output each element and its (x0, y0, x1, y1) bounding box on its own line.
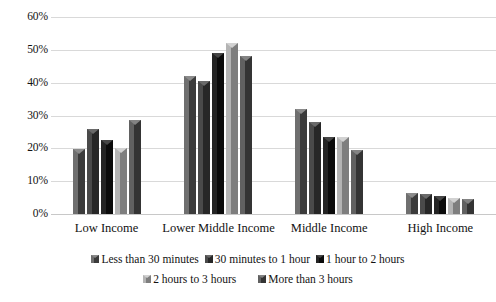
legend-swatch-cap (258, 275, 266, 278)
legend-item[interactable]: 30 minutes to 1 hour (205, 253, 310, 265)
bar-groups (51, 17, 496, 214)
bar (184, 76, 196, 214)
bar (309, 122, 321, 214)
bar (198, 81, 210, 214)
bar-top-cap (198, 81, 210, 86)
legend: Less than 30 minutes30 minutes to 1 hour… (0, 249, 496, 289)
bar (295, 109, 307, 214)
bar-face (226, 43, 238, 214)
legend-swatch-icon (258, 275, 266, 283)
x-axis-category-label: Low Income (51, 221, 162, 235)
bar (73, 149, 85, 214)
y-axis-tick-label: 0% (4, 208, 48, 220)
bar-group (184, 17, 252, 214)
bar (323, 137, 335, 214)
bar-group (295, 17, 363, 214)
legend-label: Less than 30 minutes (101, 253, 198, 265)
bar (462, 199, 474, 214)
bar-face (295, 109, 307, 214)
legend-swatch-icon (316, 255, 324, 263)
legend-swatch-icon (91, 255, 99, 263)
y-axis-tick-label: 30% (4, 110, 48, 122)
bar (420, 194, 432, 214)
legend-label: 1 hour to 2 hours (326, 253, 405, 265)
bar-group (73, 17, 141, 214)
legend-item[interactable]: More than 3 hours (258, 273, 353, 285)
bar-face (184, 76, 196, 214)
y-axis-tick-label: 20% (4, 142, 48, 154)
bar-top-cap (184, 76, 196, 81)
bar-face (309, 122, 321, 214)
legend-swatch-cap (205, 255, 213, 258)
bar-face (129, 120, 141, 214)
bar-top-cap (323, 137, 335, 142)
bar (226, 43, 238, 214)
bar-top-cap (115, 148, 127, 153)
bar-top-cap (434, 196, 446, 201)
bar (406, 193, 418, 214)
bar-face (337, 137, 349, 214)
bar-top-cap (309, 122, 321, 127)
bar-top-cap (129, 120, 141, 125)
legend-item[interactable]: 1 hour to 2 hours (316, 253, 405, 265)
legend-swatch-icon (205, 255, 213, 263)
bar-face (101, 140, 113, 214)
x-axis-category-label: Middle Income (274, 221, 385, 235)
bar-top-cap (101, 140, 113, 145)
bar (212, 53, 224, 214)
bar-top-cap (420, 194, 432, 199)
y-axis-tick-label: 10% (4, 175, 48, 187)
legend-label: 2 hours to 3 hours (153, 273, 236, 285)
bar-face (115, 148, 127, 214)
bar (240, 56, 252, 214)
plot-area (51, 17, 496, 214)
legend-item[interactable]: 2 hours to 3 hours (143, 273, 236, 285)
axis-baseline (51, 214, 496, 215)
legend-label: 30 minutes to 1 hour (215, 253, 310, 265)
bar-top-cap (351, 150, 363, 155)
bar-face (323, 137, 335, 214)
bar-top-cap (73, 149, 85, 154)
bar-face (198, 81, 210, 214)
legend-label: More than 3 hours (268, 273, 353, 285)
bar-top-cap (406, 193, 418, 198)
bar-top-cap (87, 129, 99, 134)
bar (351, 150, 363, 214)
bar (434, 196, 446, 214)
bar (129, 120, 141, 214)
legend-row-second: 2 hours to 3 hoursMore than 3 hours (0, 269, 496, 289)
bar-face (73, 149, 85, 214)
bar (87, 129, 99, 214)
bar (337, 137, 349, 214)
bar-face (87, 129, 99, 214)
bar (115, 148, 127, 214)
x-axis-category-label: High Income (385, 221, 496, 235)
bar-top-cap (295, 109, 307, 114)
legend-item[interactable]: Less than 30 minutes (91, 253, 198, 265)
y-axis-tick-label: 50% (4, 44, 48, 56)
legend-swatch-cap (143, 275, 151, 278)
bar-top-cap (337, 137, 349, 142)
bar-top-cap (462, 199, 474, 204)
bar-face (212, 53, 224, 214)
bar-face (351, 150, 363, 214)
y-axis-tick-label: 60% (4, 11, 48, 23)
y-axis-tick-label: 40% (4, 77, 48, 89)
legend-row-first: Less than 30 minutes30 minutes to 1 hour… (0, 249, 496, 269)
bar-top-cap (212, 53, 224, 58)
bar-top-cap (226, 43, 238, 48)
x-axis-category-label: Lower Middle Income (162, 221, 273, 235)
legend-swatch-icon (143, 275, 151, 283)
legend-swatch-cap (316, 255, 324, 258)
bar-face (240, 56, 252, 214)
legend-swatch-cap (91, 255, 99, 258)
bar-chart: 0%10%20%30%40%50%60% Low IncomeLower Mid… (0, 0, 496, 302)
bar (448, 198, 460, 214)
bar-group (406, 17, 474, 214)
bar-top-cap (448, 198, 460, 203)
bar (101, 140, 113, 214)
bar-top-cap (240, 56, 252, 61)
